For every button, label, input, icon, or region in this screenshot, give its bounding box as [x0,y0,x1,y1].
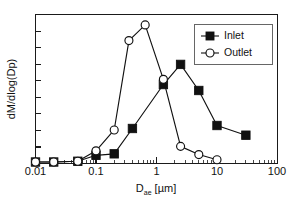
x-tick-label-1: 0.1 [88,165,103,177]
data-point-inlet-9 [213,121,221,129]
data-point-outlet-1 [50,158,58,166]
legend-marker-open-circle-icon [206,49,214,57]
series-outlet [32,21,222,166]
x-axis-ticks [36,157,278,164]
x-tick-label-4: 100 [268,165,286,177]
data-point-outlet-8 [177,142,185,150]
particle-size-distribution-chart: 0.01 0.1 1 10 100 Dae [µm] dM/dlog(Dp) I… [0,0,295,202]
x-tick-label-2: 1 [153,165,159,177]
x-tick-label-0: 0.01 [25,165,46,177]
data-point-inlet-10 [242,131,250,139]
x-axis-title-subscript: ae [144,189,152,196]
series-inlet [31,60,250,166]
legend-label-outlet: Outlet [224,46,252,58]
data-point-outlet-4 [110,126,118,134]
chart-figure: 0.01 0.1 1 10 100 Dae [µm] dM/dlog(Dp) I… [0,0,295,202]
data-point-outlet-0 [32,158,40,166]
legend-marker-filled-square-icon [206,32,214,40]
data-point-outlet-3 [92,147,100,155]
data-point-outlet-5 [125,37,133,45]
legend-label-inlet: Inlet [224,29,244,41]
data-point-outlet-2 [74,157,82,165]
x-axis-title: Dae [µm] [136,182,176,196]
y-axis-ticks [36,15,42,164]
data-point-inlet-4 [110,150,118,158]
data-point-inlet-5 [128,124,136,132]
series-line-outlet [36,25,218,162]
y-axis-title: dM/dlog(Dp) [5,59,17,120]
x-axis-title-symbol: D [136,182,144,194]
chart-legend: Inlet Outlet [195,25,273,65]
data-point-outlet-7 [159,75,167,83]
data-point-outlet-10 [213,156,221,164]
data-point-outlet-6 [141,21,149,29]
x-tick-labels: 0.01 0.1 1 10 100 [25,165,286,177]
x-axis-title-unit: [µm] [152,182,177,194]
x-tick-label-3: 10 [211,165,223,177]
data-point-inlet-8 [195,86,203,94]
series-line-inlet [36,64,246,162]
data-point-inlet-7 [176,60,184,68]
data-point-outlet-9 [195,151,203,159]
